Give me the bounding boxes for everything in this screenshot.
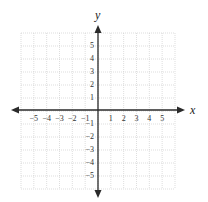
- y-tick-label: −3: [85, 145, 94, 154]
- y-axis-label: y: [94, 8, 101, 22]
- y-axis-up-arrow-icon: [95, 25, 102, 33]
- x-tick-label: 5: [160, 114, 164, 123]
- y-axis-down-arrow-icon: [95, 190, 102, 198]
- x-axis-right-arrow-icon: [177, 107, 185, 114]
- coordinate-plane: x y −5−4−3−2−112345 54321−1−2−3−4−5: [0, 0, 208, 202]
- y-tick-label: 3: [90, 67, 94, 76]
- y-tick-label: −2: [85, 132, 94, 141]
- y-tick-label: −1: [85, 119, 94, 128]
- x-tick-label: 4: [147, 114, 151, 123]
- y-tick-label: −5: [85, 171, 94, 180]
- x-tick-label: −4: [42, 114, 51, 123]
- x-tick-label: −3: [55, 114, 64, 123]
- x-tick-label: 2: [122, 114, 126, 123]
- y-tick-label: 2: [90, 80, 94, 89]
- x-axis-left-arrow-icon: [11, 107, 19, 114]
- y-tick-label: 5: [90, 41, 94, 50]
- y-tick-label: 4: [90, 54, 94, 63]
- x-tick-label: 1: [109, 114, 113, 123]
- x-tick-label: −2: [68, 114, 77, 123]
- x-tick-label: 3: [135, 114, 139, 123]
- y-tick-label: 1: [90, 93, 94, 102]
- x-tick-labels: −5−4−3−2−112345: [30, 114, 165, 123]
- x-axis-label: x: [189, 103, 196, 117]
- x-tick-label: −5: [30, 114, 39, 123]
- y-tick-label: −4: [85, 158, 94, 167]
